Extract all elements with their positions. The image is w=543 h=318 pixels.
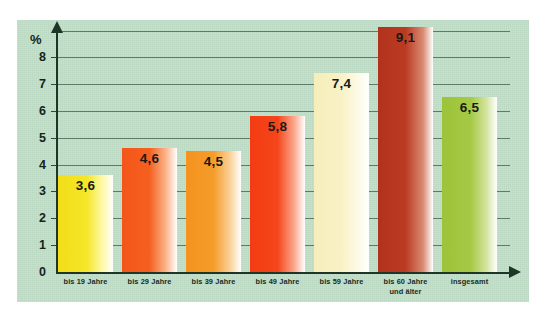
xtick-label-0: bis 19 Jahre xyxy=(58,277,113,287)
x-axis-line xyxy=(56,272,511,274)
xtick-label-1-line-0: bis 29 Jahre xyxy=(122,277,177,287)
ytick-label-5: 5 xyxy=(22,132,46,145)
bar-3: 5,8 xyxy=(250,116,305,272)
bar-1: 4,6 xyxy=(122,148,177,272)
ytick-label-7: 7 xyxy=(22,78,46,91)
gridline-7 xyxy=(57,84,510,85)
bar-value-5: 9,1 xyxy=(378,31,433,45)
bar-6: 6,5 xyxy=(442,97,497,272)
y-axis-unit-label: % xyxy=(30,33,42,46)
xtick-label-4-line-0: bis 59 Jahre xyxy=(314,277,369,287)
xtick-label-5-line-1: und älter xyxy=(378,287,433,297)
bar-value-3: 5,8 xyxy=(250,120,305,134)
ytick-label-4: 4 xyxy=(22,159,46,172)
x-axis-arrow xyxy=(509,266,521,278)
ytick-label-3: 3 xyxy=(22,185,46,198)
xtick-label-5: bis 60 Jahre und älter xyxy=(378,277,433,297)
ytick-label-8: 8 xyxy=(22,51,46,64)
bar-value-4: 7,4 xyxy=(314,77,369,91)
bar-value-0: 3,6 xyxy=(58,179,113,193)
bar-0: 3,6 xyxy=(58,175,113,272)
ytick-label-0: 0 xyxy=(22,266,46,279)
bar-5: 9,1 xyxy=(378,27,433,272)
y-axis-arrow xyxy=(51,21,63,33)
xtick-label-1: bis 29 Jahre xyxy=(122,277,177,287)
bar-value-6: 6,5 xyxy=(442,101,497,115)
xtick-label-6-line-0: insgesamt xyxy=(442,277,497,287)
xtick-label-3: bis 49 Jahre xyxy=(250,277,305,287)
xtick-label-6: insgesamt xyxy=(442,277,497,287)
bar-value-1: 4,6 xyxy=(122,152,177,166)
ytick-label-6: 6 xyxy=(22,105,46,118)
chart-figure: 0 1 2 3 4 5 6 7 8 % 3,6 4,6 4,5 5,8 7,4 xyxy=(0,0,543,318)
xtick-label-3-line-0: bis 49 Jahre xyxy=(250,277,305,287)
chart-plot-area: 0 1 2 3 4 5 6 7 8 % 3,6 4,6 4,5 5,8 7,4 xyxy=(0,0,543,318)
bar-4: 7,4 xyxy=(314,73,369,272)
ytick-label-2: 2 xyxy=(22,212,46,225)
xtick-label-4: bis 59 Jahre xyxy=(314,277,369,287)
xtick-label-2: bis 39 Jahre xyxy=(186,277,241,287)
xtick-label-2-line-0: bis 39 Jahre xyxy=(186,277,241,287)
xtick-label-0-line-0: bis 19 Jahre xyxy=(58,277,113,287)
bar-value-2: 4,5 xyxy=(186,155,241,169)
gridline-9 xyxy=(57,31,510,32)
xtick-label-5-line-0: bis 60 Jahre xyxy=(378,277,433,287)
bar-2: 4,5 xyxy=(186,151,241,272)
ytick-label-1: 1 xyxy=(22,239,46,252)
gridline-8 xyxy=(57,57,510,58)
